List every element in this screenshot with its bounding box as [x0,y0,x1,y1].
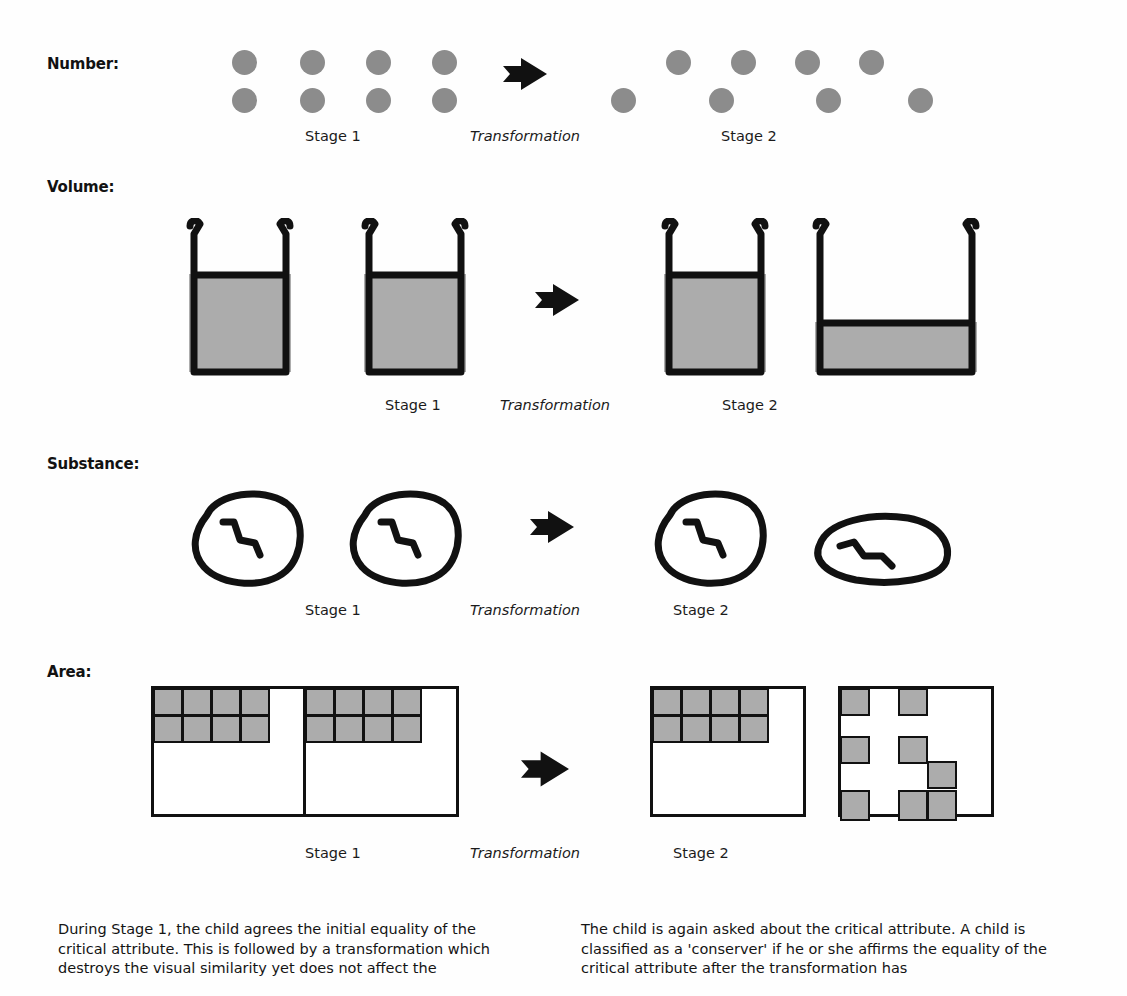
caption-paragraph-left-text: During Stage 1, the child agrees the ini… [58,920,528,979]
figure-page: Number: Stage 1 Transformation Stage 2 V… [0,0,1127,996]
caption-transformation-substance: Transformation [470,602,580,618]
area-field-stage2-packed [650,686,806,817]
caption-transformation-volume: Transformation [500,397,610,413]
area-block [652,688,682,716]
area-block [739,715,769,743]
number-dot [300,88,325,113]
area-block [652,715,682,743]
caption-stage2-substance: Stage 2 [673,602,729,618]
area-block [334,715,364,743]
area-block [240,688,270,716]
caption-stage2-volume: Stage 2 [722,397,778,413]
beaker-stage1-b [355,218,475,378]
area-block [363,688,393,716]
area-block [710,715,740,743]
area-block [898,790,928,821]
caption-stage1-area: Stage 1 [305,845,361,861]
transformation-arrow-icon [503,57,547,91]
area-block [739,688,769,716]
area-block [392,688,422,716]
number-dot [432,50,457,75]
number-dot [232,88,257,113]
transformation-arrow-icon [521,750,569,788]
clay-ball-stage1-b [340,485,470,590]
area-field-stage1-b [303,686,459,817]
number-dot [859,50,884,75]
area-block [305,688,335,716]
beaker-stage2-tall [655,218,775,378]
area-block [392,715,422,743]
area-block [898,736,928,764]
area-block [840,688,870,716]
area-block [840,736,870,764]
row-label-substance: Substance: [47,455,139,473]
number-dot [432,88,457,113]
caption-stage1-number: Stage 1 [305,128,361,144]
area-field-stage2-scattered [838,686,994,817]
number-dot [611,88,636,113]
clay-ball-stage1-a [182,485,312,590]
caption-paragraph-right-text: The child is again asked about the criti… [581,920,1059,979]
area-block [927,761,957,789]
caption-stage1-substance: Stage 1 [305,602,361,618]
row-label-volume: Volume: [47,178,114,196]
area-block [240,715,270,743]
area-block [681,715,711,743]
area-block [305,715,335,743]
caption-paragraph-right: The child is again asked about the criti… [581,920,1059,979]
number-dot [709,88,734,113]
area-block [153,688,183,716]
clay-ball-stage2-round [645,485,775,590]
number-dot [795,50,820,75]
transformation-arrow-icon [530,510,574,544]
number-dot [908,88,933,113]
area-block [211,715,241,743]
area-block [840,790,870,821]
area-field-stage1-a [151,686,307,817]
area-block [363,715,393,743]
beaker-stage1-a [180,218,300,378]
area-block [182,688,212,716]
number-dot [816,88,841,113]
area-block [153,715,183,743]
caption-stage1-volume: Stage 1 [385,397,441,413]
number-dot [666,50,691,75]
clay-ball-stage2-flat [800,508,960,590]
area-block [334,688,364,716]
caption-transformation-number: Transformation [470,128,580,144]
area-block [211,688,241,716]
caption-transformation-area: Transformation [470,845,580,861]
beaker-stage2-wide [806,218,986,378]
area-block [927,790,957,821]
area-block [681,688,711,716]
transformation-arrow-icon [535,283,579,317]
caption-stage2-number: Stage 2 [721,128,777,144]
row-label-area: Area: [47,663,91,681]
number-dot [366,88,391,113]
number-dot [300,50,325,75]
number-dot [366,50,391,75]
caption-stage2-area: Stage 2 [673,845,729,861]
number-dot [232,50,257,75]
row-label-number: Number: [47,55,119,73]
caption-paragraph-left: During Stage 1, the child agrees the ini… [58,920,528,979]
number-dot [731,50,756,75]
area-block [898,688,928,716]
area-block [182,715,212,743]
area-block [710,688,740,716]
